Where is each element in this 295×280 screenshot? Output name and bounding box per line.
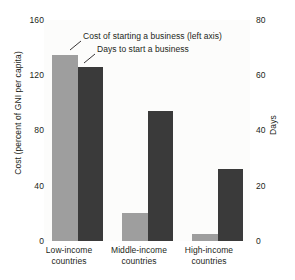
left-axis-title: Cost (percent of GNI per capita) [13, 38, 23, 188]
category-label-high-income-line2: countries [164, 256, 254, 267]
bar-cost-high-income [192, 234, 218, 241]
chart-container: 160 120 80 40 0 80 60 40 20 0 Cost (perc… [0, 0, 295, 280]
left-axis-tick-40: 40 [34, 182, 44, 191]
left-axis-tick-160: 160 [30, 16, 44, 25]
annotation-days-series: Days to start a business [97, 45, 189, 54]
annotation-cost-series: Cost of starting a business (left axis) [83, 32, 222, 41]
right-axis-tick-60: 60 [256, 71, 266, 80]
bar-days-middle-income [148, 111, 173, 241]
category-label-high-income: High-income countries [164, 245, 254, 267]
right-axis-tick-80: 80 [256, 16, 266, 25]
right-axis-tick-20: 20 [256, 182, 266, 191]
bar-days-high-income [218, 169, 243, 241]
left-axis-tick-80: 80 [34, 126, 44, 135]
bar-cost-middle-income [122, 213, 148, 241]
bar-cost-low-income [52, 55, 78, 241]
category-label-high-income-line1: High-income [164, 245, 254, 256]
left-axis-tick-120: 120 [30, 71, 44, 80]
right-axis-tick-40: 40 [256, 126, 266, 135]
right-axis-title: Days [268, 105, 278, 145]
right-axis-tick-0: 0 [256, 237, 261, 246]
bar-days-low-income [78, 67, 103, 241]
